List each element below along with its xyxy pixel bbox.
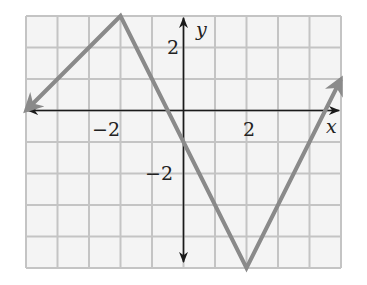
graph-plot: −2 2 2 −2 y x	[0, 0, 367, 285]
y-tick-label-2: 2	[167, 36, 179, 58]
x-tick-label-2: 2	[243, 118, 255, 140]
y-axis-label: y	[195, 18, 207, 40]
y-tick-label-neg2: −2	[145, 162, 173, 184]
x-axis-label: x	[326, 115, 337, 137]
x-tick-label-neg2: −2	[92, 118, 120, 140]
